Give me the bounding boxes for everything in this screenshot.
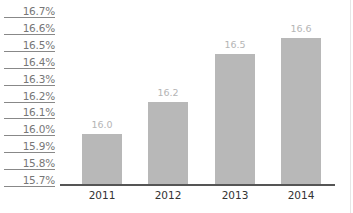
- y-tick-label: 16.2%: [4, 90, 55, 103]
- bar-2011: [82, 134, 122, 184]
- y-tick-label: 16.4%: [4, 56, 55, 69]
- x-tick-label: 2012: [138, 189, 198, 201]
- x-tick-label: 2014: [271, 189, 331, 201]
- bar-chart: 16.7%16.6%16.5%16.4%16.3%16.2%16.1%16.0%…: [0, 0, 353, 213]
- y-tick-label: 16.3%: [4, 73, 55, 86]
- bar-2014: [281, 38, 321, 184]
- data-label: 16.5: [205, 39, 265, 50]
- x-axis-line: [60, 184, 335, 186]
- bar-2013: [215, 54, 255, 184]
- y-tick-label: 16.6%: [4, 22, 55, 35]
- frame-edge: [350, 0, 351, 213]
- y-tick-label: 15.7%: [4, 174, 55, 187]
- data-label: 16.0: [72, 119, 132, 130]
- x-tick-label: 2011: [72, 189, 132, 201]
- y-tick-label: 16.5%: [4, 39, 55, 52]
- y-tick-label: 16.0%: [4, 123, 55, 136]
- y-tick-label: 15.8%: [4, 157, 55, 170]
- bar-2012: [148, 102, 188, 184]
- x-tick-label: 2013: [205, 189, 265, 201]
- data-label: 16.2: [138, 87, 198, 98]
- y-tick-label: 16.1%: [4, 106, 55, 119]
- data-label: 16.6: [271, 23, 331, 34]
- y-tick-label: 16.7%: [4, 5, 55, 18]
- y-tick-label: 15.9%: [4, 140, 55, 153]
